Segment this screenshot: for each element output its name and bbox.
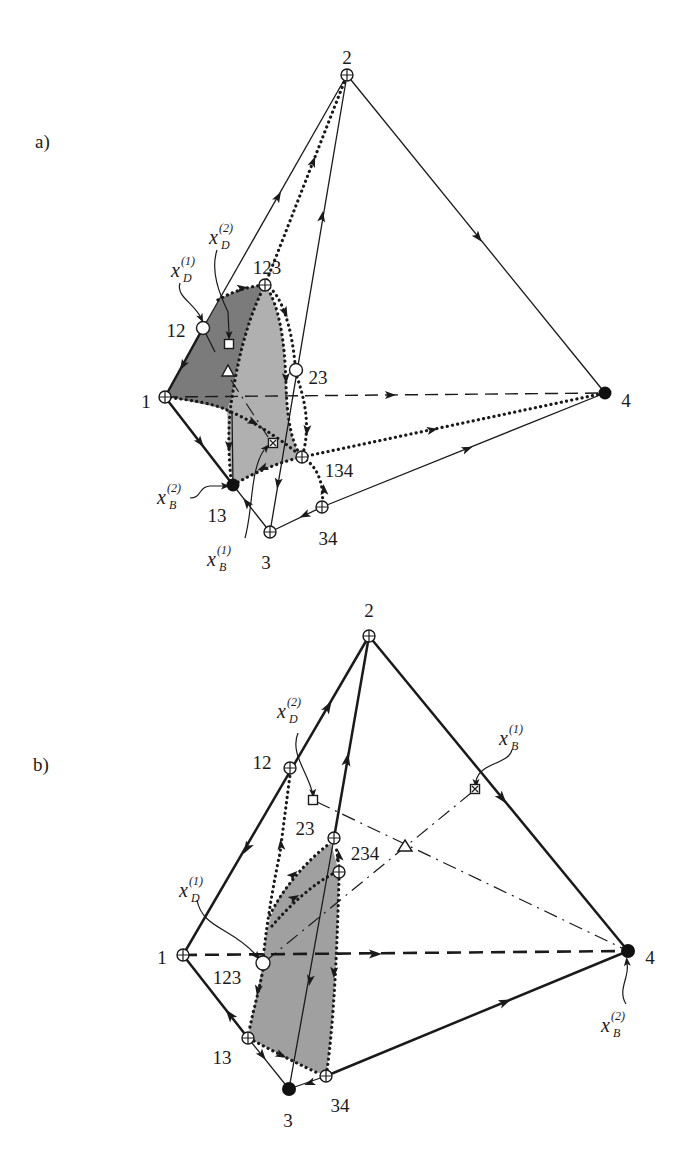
vertex-label-1: 1: [141, 391, 151, 412]
vertex-label-13: 13: [208, 505, 227, 526]
annotation-xB2: x (2) B: [600, 1002, 630, 1040]
vertex-label-3: 3: [261, 552, 271, 573]
vertex-label-34: 34: [319, 528, 339, 549]
vertex-label-3: 3: [283, 1110, 293, 1131]
annotation-xD1: x (1) D: [178, 867, 208, 905]
annotation-xB1: x (1) B: [498, 715, 528, 753]
vertex-label-23: 23: [296, 818, 315, 839]
vertex-label-12: 12: [253, 752, 272, 773]
edge-13-3: [233, 485, 270, 532]
vertex-13-marker: [227, 479, 240, 492]
vertex-1-marker: [159, 391, 171, 403]
vertex-label-12: 12: [167, 320, 186, 341]
vertex-4-marker: [599, 387, 612, 400]
vertex-label-134: 134: [325, 460, 354, 481]
panel-b: b): [33, 600, 655, 1131]
vertex-34-marker: [320, 1070, 332, 1082]
vertex-12-marker: [197, 322, 210, 335]
boxed-cross-marker: [269, 439, 278, 448]
figure-canvas: a): [0, 0, 689, 1154]
annotation-xD2: x (2) D: [208, 214, 238, 252]
vertex-234-marker: [333, 866, 345, 878]
vertex-label-123: 123: [213, 967, 242, 988]
panel-a: a): [35, 47, 631, 574]
line-square-to-4: [317, 802, 624, 949]
edge-2-4: [369, 636, 628, 951]
vertex-12-marker: [284, 762, 296, 774]
square-marker: [309, 796, 318, 805]
path-123-2: [265, 75, 347, 285]
vertex-label-1: 1: [157, 947, 167, 968]
edge-1-4-dashed: [183, 951, 628, 955]
vertex-13-marker: [242, 1032, 254, 1044]
vertex-label-13: 13: [213, 1047, 232, 1068]
vertex-123-marker: [256, 956, 270, 970]
vertex-label-2: 2: [342, 47, 352, 68]
panel-label-a: a): [35, 131, 50, 153]
panel-label-b: b): [33, 754, 49, 776]
path-134-4: [302, 393, 605, 457]
vertex-4-marker: [621, 944, 635, 958]
vertex-1-marker: [177, 949, 189, 961]
vertex-label-234: 234: [351, 843, 380, 864]
annotation-xD2: x (2) D: [276, 688, 306, 726]
vertex-23-marker: [290, 364, 303, 377]
square-marker: [225, 340, 234, 349]
annotation-xD1: x (1) D: [170, 247, 200, 285]
annotation-xB2: x (2) B: [156, 474, 186, 512]
vertex-label-4: 4: [645, 947, 655, 968]
vertex-23-marker: [328, 832, 340, 844]
annotation-xB1: x (1) B: [206, 536, 236, 574]
vertex-3-marker: [282, 1082, 296, 1096]
edge-34-4: [326, 951, 628, 1076]
boxed-cross-marker: [471, 785, 480, 794]
edge-2-4: [347, 75, 605, 393]
vertex-134-marker: [296, 451, 308, 463]
vertex-2-marker: [341, 69, 353, 81]
vertex-label-2: 2: [364, 600, 374, 621]
vertex-label-34: 34: [331, 1095, 351, 1116]
vertex-3-marker: [264, 526, 276, 538]
vertex-2-marker: [363, 630, 375, 642]
vertex-label-4: 4: [621, 390, 631, 411]
vertex-label-23: 23: [309, 367, 328, 388]
path-34-134: [302, 457, 323, 507]
path-23-134: [297, 377, 306, 457]
vertex-label-123: 123: [253, 257, 282, 278]
vertex-34-marker: [316, 501, 328, 513]
edge-34-4: [322, 393, 605, 507]
vertex-123-marker: [259, 279, 271, 291]
edge-34-3: [270, 507, 322, 532]
